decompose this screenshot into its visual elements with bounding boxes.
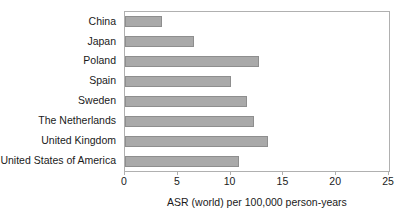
y-axis-tick-label: China xyxy=(89,16,116,27)
x-axis-tick-label: 15 xyxy=(277,176,289,187)
bar-row xyxy=(125,12,389,32)
bar-row xyxy=(125,72,389,92)
bar-row xyxy=(125,52,389,72)
x-axis-tick-label: 10 xyxy=(224,176,236,187)
bar-spain xyxy=(125,76,231,87)
bar-chart: China Japan Poland Spain Sweden The Neth… xyxy=(0,0,416,220)
y-axis-tick-united-states-of-america: United States of America xyxy=(0,150,120,170)
y-axis-labels: China Japan Poland Spain Sweden The Neth… xyxy=(0,11,120,172)
y-axis-tick-japan: Japan xyxy=(0,31,120,51)
bar-row xyxy=(125,32,389,52)
bar-row xyxy=(125,131,389,151)
x-axis-tick-label: 5 xyxy=(174,176,180,187)
bar-japan xyxy=(125,36,194,47)
y-axis-tick-label: The Netherlands xyxy=(38,115,116,126)
bar-china xyxy=(125,16,162,27)
y-axis-tick-the-netherlands: The Netherlands xyxy=(0,110,120,130)
bar-the-netherlands xyxy=(125,116,254,127)
y-axis-tick-label: Sweden xyxy=(78,95,116,106)
plot-area xyxy=(124,11,390,172)
x-axis-tick-label: 25 xyxy=(382,176,394,187)
x-axis-tick-label: 20 xyxy=(329,176,341,187)
y-axis-tick-label: United Kingdom xyxy=(41,135,116,146)
y-axis-tick-united-kingdom: United Kingdom xyxy=(0,130,120,150)
bar-row xyxy=(125,92,389,112)
bar-united-states-of-america xyxy=(125,156,239,167)
y-axis-tick-label: Spain xyxy=(89,75,116,86)
x-axis-title: ASR (world) per 100,000 person-years xyxy=(124,196,390,208)
x-axis-ticks: 0510152025 xyxy=(124,172,390,188)
y-axis-tick-label: Poland xyxy=(83,55,116,66)
y-axis-tick-poland: Poland xyxy=(0,51,120,71)
bar-sweden xyxy=(125,96,247,107)
bar-row xyxy=(125,151,389,171)
y-axis-tick-spain: Spain xyxy=(0,71,120,91)
y-axis-tick-sweden: Sweden xyxy=(0,91,120,111)
bar-row xyxy=(125,111,389,131)
y-axis-tick-label: Japan xyxy=(87,36,116,47)
bar-poland xyxy=(125,56,259,67)
x-axis-tick-label: 0 xyxy=(121,176,127,187)
y-axis-tick-label: United States of America xyxy=(0,155,116,166)
bar-united-kingdom xyxy=(125,136,268,147)
y-axis-tick-china: China xyxy=(0,11,120,31)
